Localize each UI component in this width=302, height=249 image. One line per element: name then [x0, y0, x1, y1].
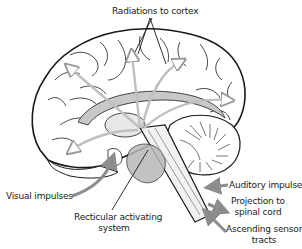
label-projection-line1: Projection to: [226, 196, 290, 207]
label-projection-line2: spinal cord: [226, 207, 290, 218]
spinal-dot: [202, 208, 205, 211]
label-ascending-line2: tracts: [226, 235, 302, 246]
label-projection-to-spinal-cord: Projection to spinal cord: [226, 196, 290, 218]
pons: [127, 144, 166, 183]
label-reticular-line1: Recticular activating: [74, 212, 154, 223]
label-reticular-line2: system: [74, 223, 154, 234]
label-ascending-sensory-tracts: Ascending sensory tracts: [226, 224, 302, 246]
label-reticular-activating-system: Recticular activating system: [74, 212, 154, 234]
label-visual-impulses: Visual impulses: [6, 191, 73, 202]
projection-arrow: [208, 204, 222, 210]
label-radiations-to-cortex: Radiations to cortex: [112, 6, 198, 17]
label-auditory-impulses: Auditory impulses: [229, 180, 302, 191]
label-ascending-line1: Ascending sensory: [226, 224, 302, 235]
ascending-sensory-arrow: [208, 214, 226, 232]
auditory-impulses-arrow: [212, 185, 228, 187]
